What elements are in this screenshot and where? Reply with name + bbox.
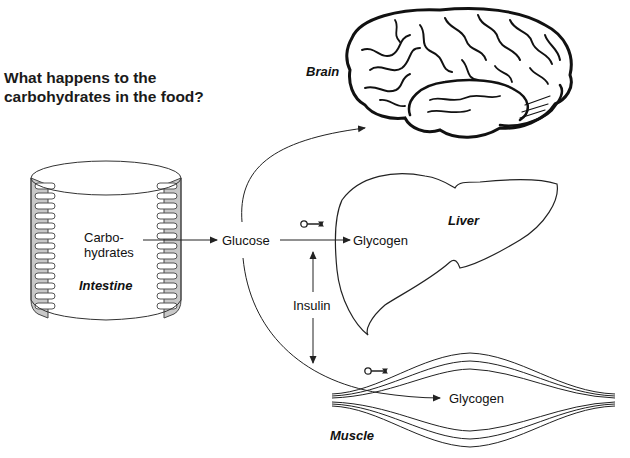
liver-illustration: [335, 174, 557, 335]
liver-label: Liver: [448, 213, 479, 228]
key-icon-liver: [301, 221, 324, 227]
brain-illustration: [347, 9, 572, 138]
title-line-2: carbohydrates in the food?: [4, 87, 204, 106]
muscle-glycogen-label: Glycogen: [449, 391, 504, 406]
insulin-label: Insulin: [293, 298, 331, 313]
muscle-label: Muscle: [330, 428, 374, 443]
glucose-label: Glucose: [222, 233, 270, 248]
brain-label: Brain: [306, 64, 339, 79]
liver-glycogen-label: Glycogen: [353, 233, 408, 248]
intestine-label: Intestine: [79, 278, 132, 293]
key-icon-muscle: [365, 368, 388, 374]
carbohydrates-label: Carbo- hydrates: [84, 230, 134, 260]
diagram-canvas: What happens to the carbohydrates in the…: [0, 0, 630, 458]
title-line-1: What happens to the: [4, 68, 204, 87]
diagram-title: What happens to the carbohydrates in the…: [4, 68, 204, 106]
